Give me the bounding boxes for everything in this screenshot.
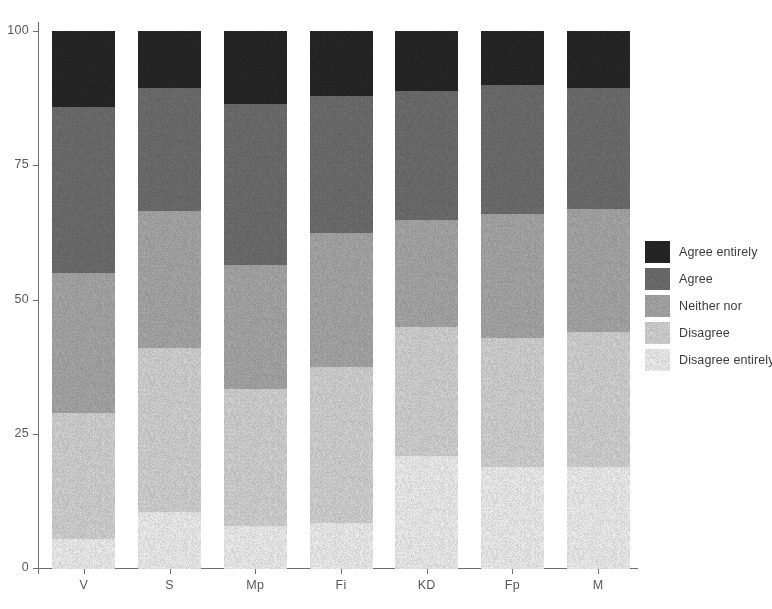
y-axis-tick: 25 bbox=[33, 434, 38, 435]
bar-segment-neither-nor bbox=[310, 232, 373, 367]
legend-item: Agree entirely bbox=[645, 238, 772, 265]
legend-label: Agree bbox=[679, 272, 713, 286]
legend-swatch bbox=[645, 268, 670, 290]
y-axis-tick-label: 75 bbox=[14, 157, 29, 171]
bar-segment-disagree-entirely bbox=[310, 522, 373, 568]
x-axis-tick-label-fp: Fp bbox=[505, 578, 520, 592]
legend-swatch bbox=[645, 295, 670, 317]
bar-segment-disagree-entirely bbox=[567, 466, 630, 569]
grain-texture bbox=[138, 211, 201, 349]
bar-segment-neither-nor bbox=[481, 214, 544, 338]
bar-segment-disagree bbox=[481, 337, 544, 466]
bar-segment-agree-entirely bbox=[52, 31, 115, 107]
bar-segment-agree-entirely bbox=[395, 31, 458, 91]
x-axis-tick bbox=[170, 569, 171, 574]
plot-area: 1007550250 VSMpFiKDFpM bbox=[38, 20, 638, 580]
grain-texture bbox=[481, 85, 544, 214]
bar-fi bbox=[310, 31, 373, 568]
grain-texture bbox=[310, 232, 373, 367]
grain-texture bbox=[395, 31, 458, 91]
grain-texture bbox=[52, 273, 115, 413]
bar-segment-disagree bbox=[138, 348, 201, 512]
legend-item: Neither nor bbox=[645, 292, 772, 319]
bar-segment-agree-entirely bbox=[310, 31, 373, 96]
stacked-bar-chart: 1007550250 VSMpFiKDFpM Agree entirelyAgr… bbox=[0, 0, 772, 609]
bar-m bbox=[567, 31, 630, 568]
legend-label: Neither nor bbox=[679, 299, 742, 313]
x-axis-tick bbox=[427, 569, 428, 574]
y-axis-tick: 0 bbox=[33, 568, 38, 569]
grain-texture bbox=[310, 522, 373, 568]
legend-label: Disagree bbox=[679, 326, 730, 340]
grain-texture bbox=[224, 525, 287, 569]
grain-texture bbox=[567, 31, 630, 88]
grain-texture bbox=[481, 214, 544, 338]
bar-segment-disagree-entirely bbox=[138, 512, 201, 569]
grain-texture bbox=[567, 466, 630, 569]
x-axis-tick-label-fi: Fi bbox=[335, 578, 346, 592]
grain-texture bbox=[138, 87, 201, 211]
grain-texture bbox=[645, 295, 670, 317]
bar-kd bbox=[395, 31, 458, 568]
bar-segment-neither-nor bbox=[224, 265, 287, 389]
y-axis-tick: 50 bbox=[33, 300, 38, 301]
grain-texture bbox=[481, 337, 544, 466]
legend-item: Disagree bbox=[645, 319, 772, 346]
bar-s bbox=[138, 31, 201, 568]
bar-segment-agree-entirely bbox=[567, 31, 630, 88]
bar-v bbox=[52, 31, 115, 568]
legend-swatch bbox=[645, 322, 670, 344]
grain-texture bbox=[395, 326, 458, 455]
grain-texture bbox=[138, 348, 201, 512]
grain-texture bbox=[645, 322, 670, 344]
bar-segment-agree bbox=[138, 87, 201, 211]
x-axis-tick bbox=[84, 569, 85, 574]
legend-swatch bbox=[645, 241, 670, 263]
bar-segment-disagree-entirely bbox=[224, 525, 287, 569]
legend-label: Disagree entirely bbox=[679, 353, 772, 367]
y-axis-tick-label: 25 bbox=[14, 426, 29, 440]
x-axis-tick bbox=[341, 569, 342, 574]
grain-texture bbox=[567, 208, 630, 332]
legend-swatch bbox=[645, 349, 670, 371]
grain-texture bbox=[52, 31, 115, 107]
y-axis-tick-label: 50 bbox=[14, 292, 29, 306]
y-axis-tick: 100 bbox=[33, 31, 38, 32]
bar-segment-disagree bbox=[224, 388, 287, 526]
bar-segment-disagree-entirely bbox=[481, 466, 544, 569]
grain-texture bbox=[52, 106, 115, 273]
legend-label: Agree entirely bbox=[679, 245, 758, 259]
x-axis-tick-label-kd: KD bbox=[418, 578, 436, 592]
bar-segment-agree-entirely bbox=[224, 31, 287, 104]
bar-segment-disagree bbox=[567, 332, 630, 467]
bar-segment-disagree bbox=[52, 412, 115, 539]
y-axis-tick: 75 bbox=[33, 165, 38, 166]
bar-segment-agree bbox=[567, 87, 630, 208]
x-axis-tick-label-v: V bbox=[80, 578, 89, 592]
bar-segment-neither-nor bbox=[138, 211, 201, 349]
x-axis-tick-label-mp: Mp bbox=[246, 578, 264, 592]
grain-texture bbox=[224, 103, 287, 265]
grain-texture bbox=[481, 466, 544, 569]
grain-texture bbox=[52, 412, 115, 539]
bar-segment-agree-entirely bbox=[481, 31, 544, 85]
grain-texture bbox=[224, 31, 287, 104]
x-axis-tick-label-s: S bbox=[165, 578, 174, 592]
bar-segment-neither-nor bbox=[52, 273, 115, 413]
grain-texture bbox=[481, 31, 544, 85]
bar-segment-agree bbox=[224, 103, 287, 265]
legend-item: Agree bbox=[645, 265, 772, 292]
bar-segment-agree bbox=[481, 85, 544, 214]
grain-texture bbox=[310, 367, 373, 523]
x-axis-tick-label-m: M bbox=[593, 578, 604, 592]
grain-texture bbox=[567, 332, 630, 467]
bar-segment-disagree-entirely bbox=[52, 538, 115, 568]
x-axis-tick bbox=[598, 569, 599, 574]
y-axis-tick-label: 100 bbox=[7, 23, 29, 37]
bar-segment-agree bbox=[310, 95, 373, 233]
grain-texture bbox=[645, 268, 670, 290]
legend-item: Disagree entirely bbox=[645, 346, 772, 373]
grain-texture bbox=[567, 87, 630, 208]
bar-segment-neither-nor bbox=[395, 219, 458, 327]
bar-segment-agree bbox=[395, 90, 458, 219]
